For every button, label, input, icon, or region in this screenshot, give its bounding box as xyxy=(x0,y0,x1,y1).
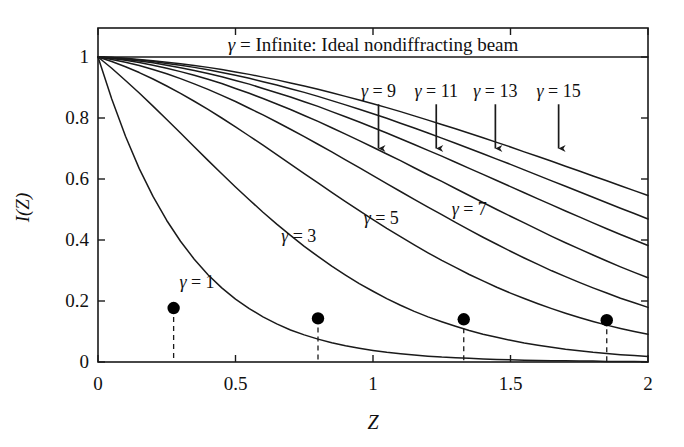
label-gamma-9: γ = 9 xyxy=(361,82,396,100)
data-point-markers xyxy=(167,302,613,327)
x-tick-label-4: 2 xyxy=(643,374,653,393)
y-tick-label-4: 0.8 xyxy=(65,108,89,127)
marker-gamma-1 xyxy=(167,302,179,314)
x-tick-label-0: 0 xyxy=(93,374,103,393)
y-tick-label-5: 1 xyxy=(80,47,90,66)
x-tick-label-1: 0.5 xyxy=(224,374,248,393)
label-gamma-13: γ = 13 xyxy=(473,82,517,100)
label-gamma-1: γ = 1 xyxy=(179,273,214,291)
marker-droplines xyxy=(174,308,607,362)
x-tick-label-3: 1.5 xyxy=(499,374,523,393)
chart-figure: 00.511.5200.20.40.60.81γ = 1γ = 3γ = 5γ … xyxy=(0,0,684,447)
marker-gamma-3 xyxy=(312,312,324,324)
label-gamma-11: γ = 11 xyxy=(414,82,458,100)
marker-gamma-7 xyxy=(601,314,613,326)
banner-nondiffracting-beam: γ = Infinite: Ideal nondiffracting beam xyxy=(228,35,519,54)
x-axis-title: Z xyxy=(367,412,378,432)
label-gamma-5: γ = 5 xyxy=(364,209,399,227)
label-gamma-3: γ = 3 xyxy=(281,227,316,245)
marker-gamma-5 xyxy=(458,313,470,325)
y-tick-label-0: 0 xyxy=(80,352,90,371)
y-tick-label-1: 0.2 xyxy=(65,291,89,310)
annotation-arrows xyxy=(379,104,559,148)
y-tick-label-3: 0.6 xyxy=(65,169,89,188)
label-gamma-15: γ = 15 xyxy=(537,82,581,100)
x-tick-label-2: 1 xyxy=(368,374,378,393)
y-tick-label-2: 0.4 xyxy=(65,230,89,249)
y-axis-title: I(Z) xyxy=(13,192,32,222)
label-gamma-7: γ = 7 xyxy=(452,200,487,218)
curve-gamma-15 xyxy=(98,57,648,195)
